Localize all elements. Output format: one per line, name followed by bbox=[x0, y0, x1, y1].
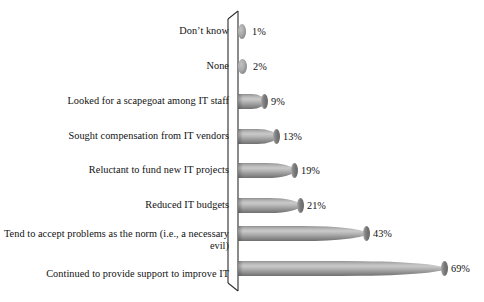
plot-area: Don’t know None Looked for a scapegoat a… bbox=[0, 0, 484, 302]
bar-sought-compensation-from-it-vendors bbox=[238, 129, 277, 144]
category-label-text: Reluctant to fund new IT projects bbox=[0, 164, 232, 176]
category-label-none: None bbox=[0, 60, 232, 72]
bar-don-t-know bbox=[238, 24, 246, 39]
category-label-text: Continued to provide support to improve … bbox=[0, 268, 232, 280]
bar-looked-for-a-scapegoat-among-it-staff bbox=[238, 94, 265, 109]
category-label-text: Reduced IT budgets bbox=[0, 199, 232, 211]
category-label-sought-compensation-from-it-vendors: Sought compensation from IT vendors bbox=[0, 130, 232, 142]
bar-value-label: 2% bbox=[253, 59, 267, 74]
category-label-looked-for-a-scapegoat-among-it-staff: Looked for a scapegoat among IT staff bbox=[0, 95, 232, 107]
bar-none bbox=[238, 59, 247, 74]
bar-value-label: 69% bbox=[451, 261, 470, 276]
category-label-reluctant-to-fund-new-it-projects: Reluctant to fund new IT projects bbox=[0, 164, 232, 176]
axis-top-connector bbox=[228, 11, 238, 19]
category-label-text: None bbox=[0, 60, 232, 72]
axis-bottom-connector bbox=[228, 283, 238, 291]
category-label-reduced-it-budgets: Reduced IT budgets bbox=[0, 199, 232, 211]
bar-value-label: 19% bbox=[301, 163, 320, 178]
bar-value-label: 13% bbox=[283, 129, 302, 144]
category-label-continued-to-provide-support-to-improve-it: Continued to provide support to improve … bbox=[0, 268, 232, 280]
bar-value-label: 21% bbox=[307, 198, 326, 213]
bar-value-label: 9% bbox=[271, 94, 285, 109]
bar-tend-to-accept-problems-as-the-norm bbox=[238, 226, 367, 241]
category-label-text: Sought compensation from IT vendors bbox=[0, 130, 232, 142]
bar-reduced-it-budgets bbox=[238, 198, 301, 213]
bar-chart: Don’t know None Looked for a scapegoat a… bbox=[0, 0, 484, 302]
category-label-text: Looked for a scapegoat among IT staff bbox=[0, 95, 232, 107]
category-label-don-t-know: Don’t know bbox=[0, 25, 232, 37]
category-label-text: Don’t know bbox=[0, 25, 232, 37]
bar-continued-to-provide-support-to-improve-it bbox=[238, 261, 445, 276]
bar-value-label: 1% bbox=[252, 24, 266, 39]
bar-value-label: 43% bbox=[373, 226, 392, 241]
category-label-tend-to-accept-problems-as-the-norm: Tend to accept problems as the norm (i.e… bbox=[0, 228, 232, 251]
bar-reluctant-to-fund-new-it-projects bbox=[238, 163, 295, 178]
category-label-text: Tend to accept problems as the norm (i.e… bbox=[0, 228, 232, 251]
